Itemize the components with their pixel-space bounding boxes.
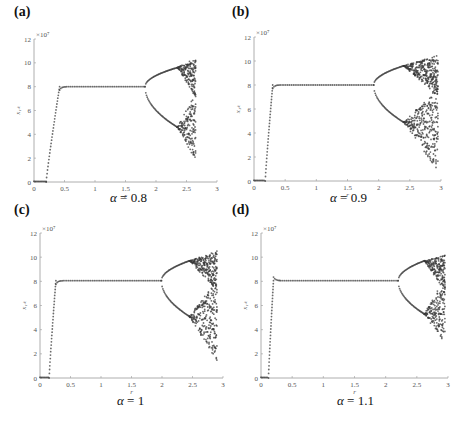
data-point bbox=[415, 63, 417, 65]
x-tick-label: 2 bbox=[377, 184, 381, 192]
data-point bbox=[443, 260, 445, 262]
data-point bbox=[340, 280, 342, 282]
data-point bbox=[270, 319, 272, 321]
data-point bbox=[399, 288, 401, 290]
data-point bbox=[68, 280, 70, 282]
data-point bbox=[317, 280, 319, 282]
data-point bbox=[214, 261, 216, 263]
x-tick-label: 2 bbox=[154, 185, 158, 193]
data-point bbox=[206, 314, 208, 316]
data-point bbox=[130, 280, 132, 282]
data-point bbox=[437, 88, 439, 90]
data-point bbox=[75, 280, 77, 282]
data-point bbox=[435, 315, 437, 317]
data-point bbox=[439, 306, 441, 308]
data-point bbox=[437, 60, 439, 62]
data-point bbox=[302, 84, 304, 86]
data-point bbox=[214, 301, 216, 303]
data-point bbox=[332, 84, 334, 86]
y-tick-label: 4 bbox=[248, 130, 252, 138]
data-point bbox=[270, 105, 272, 107]
y-tick-label: 12 bbox=[251, 230, 259, 238]
data-point bbox=[213, 267, 215, 269]
data-point bbox=[266, 151, 268, 153]
data-point bbox=[347, 280, 349, 282]
data-point bbox=[436, 102, 438, 104]
data-point bbox=[50, 143, 52, 145]
data-point bbox=[196, 317, 198, 319]
data-point bbox=[81, 86, 83, 88]
data-point bbox=[141, 86, 143, 88]
data-point bbox=[79, 280, 81, 282]
data-point bbox=[444, 287, 446, 289]
data-point bbox=[270, 111, 272, 113]
data-point bbox=[444, 284, 446, 286]
data-point bbox=[324, 84, 326, 86]
data-point bbox=[216, 306, 218, 308]
data-point bbox=[194, 154, 196, 156]
data-point bbox=[212, 353, 214, 355]
data-point bbox=[415, 127, 417, 129]
data-point bbox=[427, 128, 429, 130]
data-point bbox=[265, 168, 267, 170]
data-point bbox=[66, 280, 68, 282]
data-point bbox=[359, 280, 361, 282]
data-point bbox=[215, 275, 217, 277]
data-point bbox=[201, 329, 203, 331]
data-point bbox=[270, 102, 272, 104]
y-tick-label: 6 bbox=[28, 107, 32, 115]
data-point bbox=[266, 158, 268, 160]
data-point bbox=[291, 280, 293, 282]
data-point bbox=[207, 338, 209, 340]
data-point bbox=[443, 303, 445, 305]
data-point bbox=[51, 341, 53, 343]
data-point bbox=[306, 84, 308, 86]
data-point bbox=[134, 280, 136, 282]
data-point bbox=[433, 325, 435, 327]
data-point bbox=[209, 254, 211, 256]
data-point bbox=[431, 102, 433, 104]
x-tick-label: 1 bbox=[322, 381, 326, 389]
data-point bbox=[52, 319, 54, 321]
data-point bbox=[214, 263, 216, 265]
data-point bbox=[428, 101, 430, 103]
x-tick-label: 0 bbox=[38, 381, 42, 389]
data-point bbox=[212, 303, 214, 305]
data-point bbox=[298, 84, 300, 86]
data-point bbox=[440, 256, 442, 258]
data-point bbox=[125, 86, 127, 88]
data-point bbox=[434, 145, 436, 147]
data-point bbox=[210, 331, 212, 333]
data-point bbox=[435, 66, 437, 68]
data-point bbox=[436, 121, 438, 123]
data-point bbox=[268, 377, 270, 379]
x-tick-label: 3 bbox=[446, 381, 450, 389]
data-point bbox=[214, 309, 216, 311]
data-point bbox=[194, 72, 196, 74]
data-point bbox=[328, 84, 330, 86]
data-point bbox=[423, 102, 425, 104]
data-point bbox=[432, 111, 434, 113]
data-point bbox=[424, 105, 426, 107]
data-point bbox=[51, 139, 53, 141]
data-point bbox=[192, 88, 194, 90]
data-point bbox=[207, 265, 209, 267]
data-point bbox=[183, 70, 185, 72]
data-point bbox=[374, 92, 376, 94]
data-point bbox=[423, 151, 425, 153]
data-point bbox=[434, 301, 436, 303]
y-tick-label: 2 bbox=[34, 350, 38, 358]
data-point bbox=[93, 280, 95, 282]
data-point bbox=[431, 119, 433, 121]
data-point bbox=[268, 135, 270, 137]
data-point bbox=[415, 137, 417, 139]
data-point bbox=[126, 86, 128, 88]
data-point bbox=[191, 127, 193, 129]
data-point bbox=[194, 132, 196, 134]
data-point bbox=[425, 153, 427, 155]
data-point bbox=[214, 331, 216, 333]
data-point bbox=[49, 369, 51, 371]
data-point bbox=[423, 118, 425, 120]
data-point bbox=[444, 255, 446, 257]
data-point bbox=[437, 267, 439, 269]
